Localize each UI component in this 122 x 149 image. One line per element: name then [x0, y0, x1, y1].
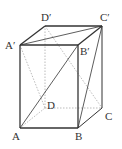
label-D-prime: D′: [41, 12, 51, 23]
label-B-prime: B′: [80, 46, 90, 57]
edge-D1C: [45, 26, 102, 108]
edge-AD: [20, 108, 45, 128]
label-C: C: [105, 111, 112, 122]
label-A-prime: A′: [5, 40, 15, 51]
label-B: B: [75, 131, 82, 142]
edge-BC1: [78, 26, 102, 128]
label-A: A: [12, 131, 20, 142]
label-C-prime: C′: [100, 12, 110, 23]
edge-A1D: [20, 45, 45, 108]
edge-AB1: [20, 45, 78, 128]
label-D: D: [47, 100, 55, 111]
